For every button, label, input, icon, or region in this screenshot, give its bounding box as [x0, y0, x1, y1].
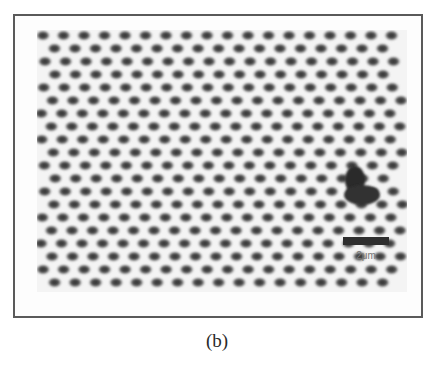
lattice-dot	[385, 83, 400, 94]
lattice-dot	[333, 148, 348, 159]
lattice-dot	[239, 135, 254, 146]
lattice-dot	[95, 109, 110, 120]
lattice-dot	[374, 200, 389, 211]
lattice-dot	[271, 148, 286, 159]
lattice-dot	[209, 96, 224, 107]
lattice-dot	[140, 57, 155, 68]
lattice-dot	[239, 109, 254, 120]
lattice-dot	[159, 31, 174, 42]
lattice-dot	[168, 96, 183, 107]
lattice-dot	[291, 96, 306, 107]
lattice-dot	[179, 31, 194, 42]
lattice-dot	[228, 122, 243, 133]
lattice-dot	[273, 174, 288, 185]
lattice-dot	[230, 148, 245, 159]
lattice-dot	[148, 96, 163, 107]
lattice-dot	[150, 70, 165, 81]
lattice-dot	[138, 265, 153, 276]
lattice-dot	[146, 122, 161, 133]
lattice-dot	[201, 161, 216, 172]
lattice-dot	[253, 174, 268, 185]
lattice-dot	[48, 174, 63, 185]
lattice-dot	[178, 213, 193, 224]
lattice-dot	[56, 265, 71, 276]
lattice-dot	[208, 122, 223, 133]
lattice-dot	[304, 57, 319, 68]
lattice-dot	[291, 252, 306, 263]
lattice-dot	[302, 31, 317, 42]
lattice-dot	[221, 161, 236, 172]
lattice-dot	[177, 109, 192, 120]
lattice-dot	[375, 44, 390, 55]
lattice-dot	[55, 135, 70, 146]
lattice-dot	[322, 213, 337, 224]
lattice-dot	[128, 148, 143, 159]
lattice-dot	[187, 122, 202, 133]
lattice-dot	[321, 109, 336, 120]
lattice-dot	[314, 70, 329, 81]
lattice-dot	[383, 135, 398, 146]
lattice-dot	[232, 278, 247, 289]
lattice-dot	[242, 161, 257, 172]
lattice-dot	[353, 148, 368, 159]
lattice-dot	[241, 31, 256, 42]
lattice-dot	[263, 187, 278, 198]
lattice-dot	[130, 70, 145, 81]
lattice-dot	[323, 83, 338, 94]
lattice-dot	[199, 213, 214, 224]
lattice-dot	[365, 161, 380, 172]
lattice-dot	[345, 57, 360, 68]
lattice-dot	[294, 70, 309, 81]
lattice-dot	[270, 226, 285, 237]
lattice-dot	[189, 148, 204, 159]
lattice-dot	[293, 44, 308, 55]
lattice-dot	[362, 109, 377, 120]
lattice-dot	[78, 187, 93, 198]
lattice-dot	[136, 109, 151, 120]
lattice-dot	[222, 187, 237, 198]
lattice-dot	[219, 135, 234, 146]
lattice-dot	[334, 278, 349, 289]
lattice-dot	[372, 122, 387, 133]
lattice-dot	[324, 161, 339, 172]
lattice-dot	[99, 187, 114, 198]
lattice-dot	[240, 213, 255, 224]
lattice-dot	[37, 187, 52, 198]
lattice-dot	[282, 265, 297, 276]
lattice-dot	[342, 213, 357, 224]
lattice-dot	[283, 161, 298, 172]
lattice-dot	[293, 278, 308, 289]
lattice-dot	[294, 174, 309, 185]
lattice-dot	[98, 83, 113, 94]
lattice-dot	[191, 70, 206, 81]
lattice-dot	[140, 187, 155, 198]
lattice-dot	[323, 265, 338, 276]
lattice-dot	[372, 226, 387, 237]
lattice-dot	[311, 226, 326, 237]
lattice-dot	[137, 213, 152, 224]
lattice-dot	[312, 96, 327, 107]
lattice-dot	[211, 278, 226, 289]
lattice-dot	[137, 135, 152, 146]
lattice-dot	[273, 70, 288, 81]
lattice-dot	[159, 83, 174, 94]
lattice-dot	[44, 122, 59, 133]
lattice-dot	[259, 239, 274, 250]
lattice-dot	[158, 213, 173, 224]
lattice-dot	[384, 31, 399, 42]
lattice-dot	[331, 226, 346, 237]
lattice-dot	[107, 96, 122, 107]
lattice-dot	[324, 187, 339, 198]
lattice-dot	[160, 161, 175, 172]
lattice-dot	[261, 31, 276, 42]
lattice-dot	[250, 96, 265, 107]
lattice-dot	[290, 122, 305, 133]
lattice-dot	[120, 57, 135, 68]
lattice-dot	[119, 161, 134, 172]
lattice-dot	[230, 96, 245, 107]
lattice-dot	[343, 265, 358, 276]
lattice-dot	[116, 239, 131, 250]
lattice-dot	[139, 83, 154, 94]
lattice-dot	[130, 174, 145, 185]
lattice-dot	[200, 31, 215, 42]
